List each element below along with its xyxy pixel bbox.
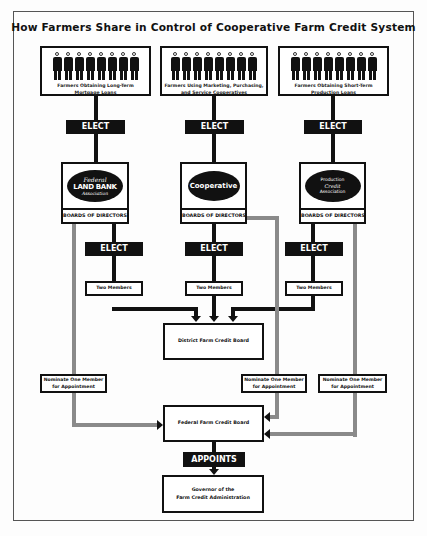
farmers-figures-icon xyxy=(291,52,377,80)
farmer-figure-icon xyxy=(302,52,311,80)
farmers-label: Production Loans xyxy=(311,90,356,95)
pca-logo-icon: Production Credit Association xyxy=(305,170,361,202)
farmers-box-shortterm: Farmers Obtaining Short-TermProduction L… xyxy=(278,46,389,96)
board-landbank: Federal LAND BANK Association BOARDS OF … xyxy=(61,162,129,224)
boards-label: BOARDS OF DIRECTORS xyxy=(301,208,364,222)
cooperative-logo-icon: Cooperative xyxy=(188,171,240,201)
nominate-box: Nominate One Memberfor Appointment xyxy=(40,374,107,393)
connector-line xyxy=(112,307,198,311)
farmer-figure-icon xyxy=(64,52,73,80)
nomination-line xyxy=(270,415,279,419)
arrow-left-icon xyxy=(264,412,270,422)
elect-label: ELECT xyxy=(185,242,243,256)
connector-line xyxy=(231,307,315,311)
connector-line xyxy=(231,307,235,316)
elect-label: ELECT xyxy=(304,120,362,134)
farmers-figures-icon xyxy=(171,52,257,80)
farmer-figure-icon xyxy=(226,52,235,80)
nominate-box: Nominate One Memberfor Appointment xyxy=(318,374,387,393)
farmers-label: Farmers Obtaining Short-Term xyxy=(295,83,373,88)
elect-label: ELECT xyxy=(85,242,143,256)
nomination-line xyxy=(72,224,76,427)
farmer-figure-icon xyxy=(53,52,62,80)
district-farm-credit-board: District Farm Credit Board xyxy=(163,323,264,360)
nomination-line xyxy=(353,224,357,437)
landbank-logo-icon: Federal LAND BANK Association xyxy=(67,170,123,202)
two-members-box: Two Members xyxy=(185,281,243,296)
elect-label: ELECT xyxy=(66,120,125,134)
farmer-figure-icon xyxy=(357,52,366,80)
farmers-label: Farmers Using Marketing, Purchasing, xyxy=(164,83,263,88)
appoints-label: APPOINTS xyxy=(183,452,245,467)
board-cooperative: Cooperative BOARDS OF DIRECTORS xyxy=(180,162,247,224)
farmer-figure-icon xyxy=(248,52,257,80)
connector-line xyxy=(212,296,216,316)
two-members-box: Two Members xyxy=(285,281,343,296)
farmer-figure-icon xyxy=(182,52,191,80)
board-production-credit: Production Credit Association BOARDS OF … xyxy=(299,162,366,224)
connector-line xyxy=(311,296,315,311)
farmer-figure-icon xyxy=(291,52,300,80)
farmer-figure-icon xyxy=(75,52,84,80)
boards-label: BOARDS OF DIRECTORS xyxy=(182,208,245,222)
two-members-box: Two Members xyxy=(85,281,143,296)
federal-farm-credit-board: Federal Farm Credit Board xyxy=(163,405,264,442)
farmer-figure-icon xyxy=(237,52,246,80)
farmer-figure-icon xyxy=(324,52,333,80)
farmer-figure-icon xyxy=(171,52,180,80)
farmer-figure-icon xyxy=(86,52,95,80)
arrow-down-icon xyxy=(191,316,201,322)
farmers-box-cooperatives: Farmers Using Marketing, Purchasing,and … xyxy=(160,46,268,96)
nominate-box: Nominate One Memberfor Appointment xyxy=(241,374,307,393)
farmer-figure-icon xyxy=(193,52,202,80)
connector-line xyxy=(194,307,198,316)
boards-label: BOARDS OF DIRECTORS xyxy=(63,208,127,222)
arrow-down-icon xyxy=(209,316,219,322)
farmers-label: Farmers Obtaining Long-Term xyxy=(57,83,133,88)
farmer-figure-icon xyxy=(215,52,224,80)
elect-label: ELECT xyxy=(285,242,343,256)
diagram-title: How Farmers Share in Control of Cooperat… xyxy=(0,21,427,33)
nomination-line xyxy=(72,423,157,427)
farmer-figure-icon xyxy=(130,52,139,80)
farmer-figure-icon xyxy=(313,52,322,80)
farmers-label: and Service Cooperatives xyxy=(181,90,247,95)
farmer-figure-icon xyxy=(119,52,128,80)
arrow-down-icon xyxy=(228,316,238,322)
governor-box: Governor of theFarm Credit Administratio… xyxy=(162,475,264,513)
farmer-figure-icon xyxy=(346,52,355,80)
farmer-figure-icon xyxy=(204,52,213,80)
farmers-box-longterm: Farmers Obtaining Long-TermMortgage Loan… xyxy=(40,46,151,96)
farmers-label: Mortgage Loans xyxy=(75,90,117,95)
arrow-left-icon xyxy=(264,429,270,439)
nomination-line xyxy=(270,432,357,436)
farmer-figure-icon xyxy=(335,52,344,80)
farmer-figure-icon xyxy=(108,52,117,80)
farmer-figure-icon xyxy=(368,52,377,80)
farmers-figures-icon xyxy=(53,52,139,80)
elect-label: ELECT xyxy=(185,120,244,134)
farmer-figure-icon xyxy=(97,52,106,80)
